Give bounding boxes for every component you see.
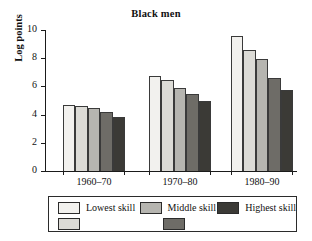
x-tick bbox=[292, 171, 293, 175]
x-tick bbox=[210, 171, 211, 175]
legend-label: Middle skill bbox=[168, 202, 217, 213]
bar bbox=[231, 36, 243, 171]
bar-group-bars bbox=[149, 30, 211, 171]
x-tick bbox=[149, 171, 150, 175]
legend-entry bbox=[163, 216, 263, 231]
bar-group bbox=[63, 30, 125, 171]
plot-area: 0246810 1960–701970–801980–90 bbox=[45, 30, 297, 172]
y-tick-10: 10 bbox=[41, 30, 45, 31]
bar bbox=[186, 94, 198, 171]
bar bbox=[161, 80, 173, 171]
bar bbox=[256, 59, 268, 171]
x-tick bbox=[124, 171, 125, 175]
bar bbox=[88, 108, 100, 171]
bar bbox=[243, 50, 255, 171]
x-tick-label: 1970–80 bbox=[135, 176, 225, 187]
y-tick-label-10: 10 bbox=[27, 23, 37, 34]
legend-swatch bbox=[163, 218, 185, 230]
bar-group bbox=[149, 30, 211, 171]
y-tick-label-8: 8 bbox=[32, 51, 37, 62]
y-tick-label-0: 0 bbox=[32, 164, 37, 175]
y-axis-label: Log points bbox=[13, 0, 27, 78]
bar bbox=[268, 78, 280, 171]
legend-row-primary: Lowest skillMiddle skillHighest skill bbox=[49, 200, 296, 215]
y-tick-0: 0 bbox=[41, 171, 45, 172]
bar bbox=[281, 90, 293, 171]
bar bbox=[75, 106, 87, 171]
y-axis-line bbox=[45, 30, 46, 172]
y-tick-2: 2 bbox=[41, 143, 45, 144]
legend-swatch bbox=[217, 202, 239, 214]
legend-entry: Middle skill bbox=[140, 200, 218, 215]
bar bbox=[199, 101, 211, 171]
y-tick-label-4: 4 bbox=[32, 108, 37, 119]
legend-swatch bbox=[140, 202, 162, 214]
bar bbox=[174, 88, 186, 171]
x-tick bbox=[63, 171, 64, 175]
chart-legend: Lowest skillMiddle skillHighest skill bbox=[48, 196, 297, 232]
legend-entry: Highest skill bbox=[217, 200, 296, 215]
x-tick-label: 1980–90 bbox=[217, 176, 307, 187]
legend-swatch bbox=[58, 218, 80, 230]
y-tick-4: 4 bbox=[41, 115, 45, 116]
chart-figure: Black men Log points 0246810 1960–701970… bbox=[0, 0, 312, 241]
bar-group-bars bbox=[231, 30, 293, 171]
y-tick-label-2: 2 bbox=[32, 136, 37, 147]
bar-group-bars bbox=[63, 30, 125, 171]
legend-entry bbox=[58, 216, 163, 231]
legend-entry: Lowest skill bbox=[58, 200, 140, 215]
bar-group bbox=[231, 30, 293, 171]
legend-label: Highest skill bbox=[245, 202, 296, 213]
x-tick bbox=[231, 171, 232, 175]
bar bbox=[63, 105, 75, 171]
legend-row-secondary bbox=[49, 216, 296, 231]
bar bbox=[149, 76, 161, 171]
x-tick-label: 1960–70 bbox=[49, 176, 139, 187]
y-tick-8: 8 bbox=[41, 58, 45, 59]
y-tick-label-6: 6 bbox=[32, 79, 37, 90]
legend-label: Lowest skill bbox=[86, 202, 135, 213]
bar bbox=[100, 112, 112, 172]
chart-title: Black men bbox=[0, 8, 312, 19]
x-axis-line bbox=[45, 171, 297, 172]
y-tick-6: 6 bbox=[41, 86, 45, 87]
legend-swatch bbox=[58, 202, 80, 214]
bar bbox=[113, 117, 125, 171]
